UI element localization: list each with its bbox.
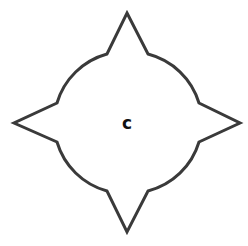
diagram-canvas: c [0, 0, 248, 246]
center-label: c [122, 113, 132, 133]
